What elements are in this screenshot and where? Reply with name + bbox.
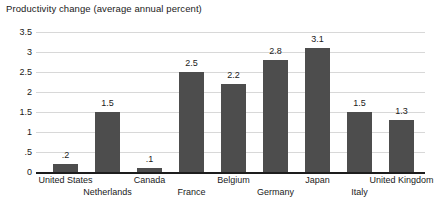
y-axis-tick-label: 3: [0, 48, 32, 57]
bar: [347, 112, 372, 172]
gridline: [36, 52, 425, 53]
bar: [221, 84, 246, 172]
bar-value-label: 3.1: [298, 35, 338, 44]
bar-value-label: .2: [46, 151, 86, 160]
category-label: Japan: [273, 175, 363, 185]
category-label: United Kingdom: [357, 175, 438, 185]
y-axis-tick-label: 2: [0, 88, 32, 97]
bar-value-label: 2.8: [256, 47, 296, 56]
y-axis-tick-label: 1.5: [0, 108, 32, 117]
gridline: [36, 32, 425, 33]
category-label: Italy: [315, 187, 405, 197]
category-label: United States: [21, 175, 111, 185]
y-axis-tick-label: 3.5: [0, 28, 32, 37]
category-label: Germany: [231, 187, 321, 197]
x-axis-line: [36, 172, 425, 174]
bar-value-label: 1.5: [340, 99, 380, 108]
bar: [179, 72, 204, 172]
bar: [389, 120, 414, 172]
bar: [95, 112, 120, 172]
category-label: Canada: [105, 175, 195, 185]
category-label: France: [147, 187, 237, 197]
y-axis-tick-label: .5: [0, 148, 32, 157]
y-axis-tick-label: 1: [0, 128, 32, 137]
bar: [305, 48, 330, 172]
bar: [263, 60, 288, 172]
bar: [53, 164, 78, 172]
bar-value-label: 1.3: [382, 107, 422, 116]
category-label: Netherlands: [63, 187, 153, 197]
y-axis-tick-label: 2.5: [0, 68, 32, 77]
chart-title: Productivity change (average annual perc…: [6, 3, 202, 15]
bar-value-label: .1: [130, 155, 170, 164]
bar-value-label: 1.5: [88, 99, 128, 108]
bar-value-label: 2.2: [214, 71, 254, 80]
category-label: Belgium: [189, 175, 279, 185]
bar-value-label: 2.5: [172, 59, 212, 68]
